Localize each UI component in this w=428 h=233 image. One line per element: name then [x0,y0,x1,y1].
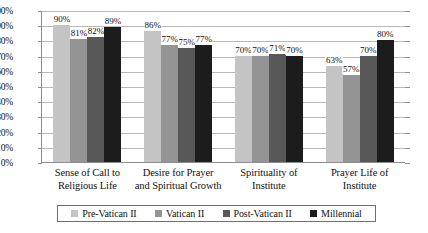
legend-swatch-icon [310,210,317,217]
chart-legend: Pre-Vatican IIVatican IIPost-Vatican IIM… [57,205,376,222]
y-axis-tick-right [405,11,410,12]
bar[interactable]: 71% [269,54,286,162]
bar[interactable]: 89% [104,27,121,162]
legend-label: Millennial [321,209,362,219]
bar[interactable]: 70% [286,56,303,162]
legend-label: Post-Vatican II [234,209,292,219]
plot-area: 90%81%82%89%86%77%75%77%70%70%71%70%63%5… [41,11,405,163]
bar-value-label: 75% [178,38,196,47]
legend-swatch-icon [155,210,162,217]
bar-value-label: 77% [195,35,213,44]
y-axis-label: 0% [0,159,13,169]
y-axis-tick-right [405,117,410,118]
bar-value-label: 77% [161,35,179,44]
y-axis-tick-right [405,163,410,164]
y-axis-label: 20% [0,128,13,138]
bar-group: 70%70%71%70% [224,11,315,162]
legend-item[interactable]: Post-Vatican II [223,209,292,219]
bar[interactable]: 70% [360,56,377,162]
legend-swatch-icon [71,210,78,217]
y-axis-tick-right [405,148,410,149]
bar[interactable]: 63% [326,66,343,162]
x-axis-category-line: Spirituality of [224,167,315,180]
bar-value-label: 82% [87,27,105,36]
y-axis-label: 80% [0,37,13,47]
legend-item[interactable]: Vatican II [155,209,204,219]
y-axis-tick-right [405,102,410,103]
bar-value-label: 86% [144,21,162,30]
x-axis-category-line: Institute [314,180,405,193]
bar-value-label: 90% [53,15,71,24]
bar-value-label: 71% [269,44,287,53]
bar-group: 90%81%82%89% [42,11,133,162]
bar[interactable]: 86% [144,31,161,162]
bar-group: 86%77%75%77% [133,11,224,162]
y-axis-tick-right [405,41,410,42]
x-axis-category-label: Sense of Call toReligious Life [42,167,133,192]
y-axis-tick-left [38,163,42,164]
bar[interactable]: 90% [53,25,70,162]
x-axis-category-line: Desire for Prayer [133,167,224,180]
y-axis-tick-right [405,133,410,134]
y-axis-tick-right [405,72,410,73]
bar[interactable]: 82% [87,37,104,162]
legend-label: Pre-Vatican II [82,209,136,219]
legend-label: Vatican II [166,209,204,219]
x-axis-category-line: and Spiritual Growth [133,180,224,193]
x-axis-category-label: Prayer Life ofInstitute [314,167,405,192]
x-axis-category-label: Desire for Prayerand Spiritual Growth [133,167,224,192]
bar-value-label: 70% [235,46,253,55]
bar-value-label: 89% [104,17,122,26]
y-axis-label: 60% [0,67,13,77]
bar[interactable]: 70% [235,56,252,162]
y-axis-label: 90% [0,22,13,32]
legend-item[interactable]: Pre-Vatican II [71,209,136,219]
x-axis-category-label: Spirituality ofInstitute [224,167,315,192]
y-axis-tick-right [405,87,410,88]
bar-value-label: 80% [376,30,394,39]
y-axis-tick-right [405,57,410,58]
y-axis-label: 30% [0,113,13,123]
bar-value-label: 57% [342,65,360,74]
bar[interactable]: 77% [195,45,212,162]
bar-group: 63%57%70%80% [314,11,405,162]
bar[interactable]: 77% [161,45,178,162]
x-axis-category-line: Religious Life [42,180,133,193]
bar-value-label: 70% [359,46,377,55]
bar[interactable]: 75% [178,48,195,162]
bar-value-label: 63% [325,56,343,65]
bar-value-label: 70% [252,46,270,55]
bar-groups: 90%81%82%89%86%77%75%77%70%70%71%70%63%5… [42,11,405,162]
y-axis-label: 40% [0,98,13,108]
x-axis-category-line: Sense of Call to [42,167,133,180]
y-axis-label: 50% [0,83,13,93]
x-axis-labels: Sense of Call toReligious LifeDesire for… [42,167,405,192]
y-axis-label: 10% [0,143,13,153]
legend-item[interactable]: Millennial [310,209,362,219]
bar-value-label: 81% [70,29,88,38]
x-axis-category-line: Institute [224,180,315,193]
bar[interactable]: 70% [252,56,269,162]
bar[interactable]: 81% [70,39,87,162]
y-axis-tick-right [405,26,410,27]
y-axis-label: 70% [0,52,13,62]
bar-value-label: 70% [286,46,304,55]
plot-wrapper: 90%81%82%89%86%77%75%77%70%70%71%70%63%5… [41,11,405,163]
bar[interactable]: 57% [343,75,360,162]
x-axis-category-line: Prayer Life of [314,167,405,180]
bar-chart: 90%81%82%89%86%77%75%77%70%70%71%70%63%5… [0,0,428,233]
legend-swatch-icon [223,210,230,217]
y-axis-label: 100% [0,7,13,17]
bar[interactable]: 80% [377,40,394,162]
